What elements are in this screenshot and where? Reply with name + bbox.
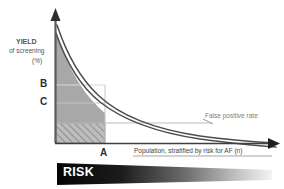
marker-label-b: B xyxy=(40,79,47,89)
x-axis-label: Population, stratified by risk for AF (n… xyxy=(134,148,242,155)
yield-risk-chart xyxy=(0,0,284,189)
risk-bar-label: RISK xyxy=(63,166,94,179)
figure-canvas: YIELD of screening (%) B C A Population,… xyxy=(0,0,284,189)
marker-label-c: C xyxy=(40,97,47,107)
y-axis-subtitle: of screening xyxy=(9,48,44,55)
y-axis-units: (%) xyxy=(32,58,42,65)
marker-label-a: A xyxy=(100,148,107,158)
y-axis-title: YIELD xyxy=(16,38,37,45)
false-positive-hatched-region xyxy=(56,123,105,143)
false-positive-rate-label: False positive rate xyxy=(205,113,258,120)
